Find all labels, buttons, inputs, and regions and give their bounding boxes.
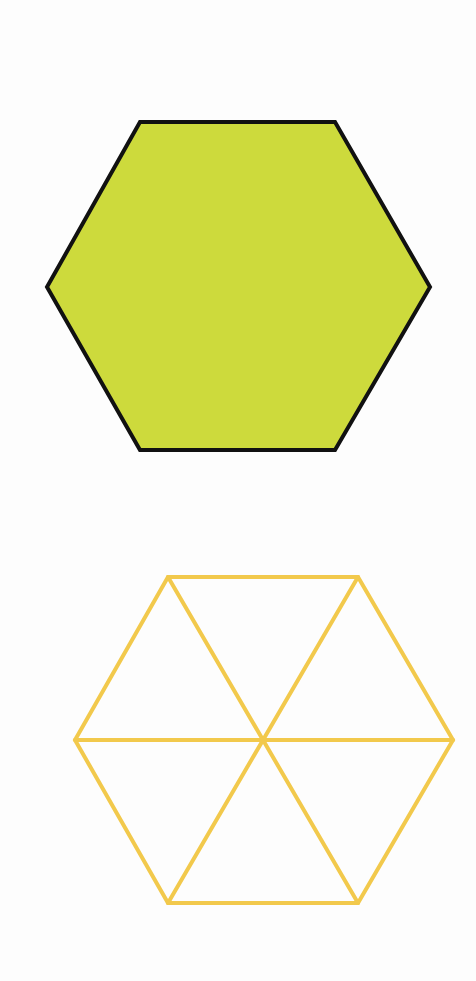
worksheet-page xyxy=(0,0,476,981)
hexagon-diagram xyxy=(0,0,476,981)
filled-green-hexagon xyxy=(47,122,430,450)
hexagon-divided-into-triangles xyxy=(75,577,453,903)
